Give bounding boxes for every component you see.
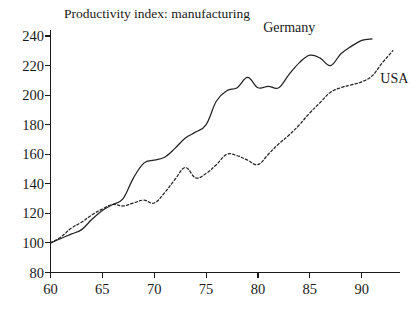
x-tick-label: 80 [251, 281, 266, 297]
x-tick-label: 75 [199, 281, 214, 297]
y-tick-label: 80 [30, 265, 45, 281]
x-tick-label: 90 [354, 281, 369, 297]
x-tick-label: 70 [147, 281, 162, 297]
y-tick-label: 200 [22, 87, 44, 103]
y-tick-label: 120 [22, 205, 44, 221]
x-tick-label: 60 [43, 281, 58, 297]
x-tick-label: 65 [95, 281, 110, 297]
chart-canvas: 80100120140160180200220240 6065707580859… [0, 0, 420, 311]
chart-title: Productivity index: manufacturing [64, 6, 250, 21]
y-axis-tick-labels: 80100120140160180200220240 [22, 28, 44, 281]
y-tick-label: 160 [22, 146, 44, 162]
series-label-usa: USA [380, 71, 409, 86]
y-tick-label: 180 [22, 117, 44, 133]
productivity-chart: 80100120140160180200220240 6065707580859… [0, 0, 420, 311]
x-axis-ticks [51, 273, 362, 279]
x-tick-label: 85 [303, 281, 318, 297]
y-tick-label: 240 [22, 28, 44, 44]
series-line-usa [51, 51, 393, 243]
y-tick-label: 100 [22, 235, 44, 251]
y-tick-label: 220 [22, 58, 44, 74]
x-axis-tick-labels: 60657075808590 [43, 281, 369, 297]
y-tick-label: 140 [22, 176, 44, 192]
y-axis-ticks [45, 36, 51, 273]
series-label-germany: Germany [263, 20, 315, 35]
series-line-germany [51, 39, 373, 243]
